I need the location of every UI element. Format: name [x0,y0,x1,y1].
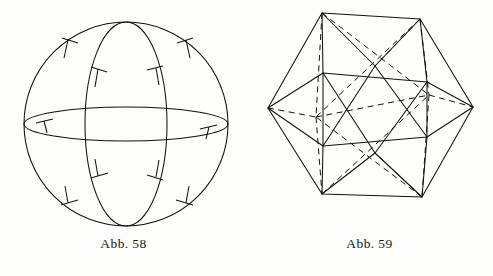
right-angle-tick-lower-right-outline [176,186,193,205]
figure-sphere-caption: Abb. 58 [0,236,247,252]
icosahedron-drawing [246,0,493,236]
equator-ellipse [24,107,228,141]
edge-bottom-right-to-lower-apex [375,153,422,197]
edge-top-left-to-apex [322,13,375,66]
edge-left-to-front-upper [268,73,323,108]
figure-icosahedron-caption: Abb. 59 [246,236,493,252]
edge-top-right-to-apex [375,19,420,66]
outer-hexagon-silhouette [268,13,473,197]
visible-edges-group [268,13,473,197]
edge-top-left-to-front [322,13,323,73]
right-angle-tick-equator-right [200,125,217,139]
figure-sphere: Abb. 58 [0,0,247,276]
edge-bottom-left-to-apex [322,153,375,194]
figure-page: Abb. 58 [0,0,493,276]
right-angle-tick-equator-left [36,119,53,133]
right-angle-tick-meridian-upper-left [91,67,107,87]
right-angle-tick-meridian-lower-left [91,159,108,178]
edge-right-to-front-lower [427,107,473,137]
right-angle-tick-upper-right-outline [177,38,193,58]
sphere-outline-circle [24,22,228,226]
hidden-edges-group [268,13,473,197]
edge-right-to-front-upper [427,82,473,107]
sphere-drawing [0,0,247,236]
meridian-ellipse [85,22,167,226]
right-angle-tick-upper-left-outline [62,38,78,58]
edge-left-to-front-lower [268,108,323,146]
figure-icosahedron: Abb. 59 [246,0,493,276]
right-angle-tick-lower-left-outline [61,186,78,205]
edge-bottom-left-to-front [322,146,323,194]
edge-bottom-right-to-front [422,137,427,197]
